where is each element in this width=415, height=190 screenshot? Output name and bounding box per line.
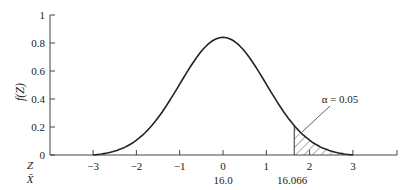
- y-tick-label: 1: [40, 9, 46, 21]
- density-curve: [93, 37, 353, 155]
- x-tick-label: −2: [131, 160, 143, 172]
- alpha-annotation: α = 0.05: [322, 93, 359, 105]
- y-tick-label: 0: [40, 149, 46, 161]
- x-tick-label: 3: [350, 160, 356, 172]
- x-tick-label: 2: [307, 160, 313, 172]
- y-axis-label: f(Z): [13, 83, 27, 101]
- x-axis-label-xbar: X̄: [26, 173, 35, 185]
- x-tick-label: 0: [220, 160, 226, 172]
- y-tick-label: 0.8: [31, 37, 45, 49]
- y-axis: 00.20.40.60.81: [31, 9, 55, 161]
- x-tick-label: −3: [87, 160, 99, 172]
- xbar-tick-label: 16.0: [213, 174, 233, 186]
- xbar-tick-label: 16.066: [277, 174, 308, 186]
- x-axis-label-z: Z: [27, 159, 34, 171]
- x-tick-label: −1: [174, 160, 186, 172]
- y-tick-label: 0.4: [31, 93, 45, 105]
- annotation-leader: [302, 106, 330, 132]
- y-tick-label: 0.6: [31, 65, 45, 77]
- x-tick-label: 1: [264, 160, 270, 172]
- normal-distribution-chart: 00.20.40.60.81 −3−2−10123 16.016.066 f(Z…: [0, 0, 415, 190]
- x-axis: −3−2−10123 16.016.066: [50, 150, 397, 186]
- rejection-region: [294, 126, 353, 155]
- y-tick-label: 0.2: [31, 121, 45, 133]
